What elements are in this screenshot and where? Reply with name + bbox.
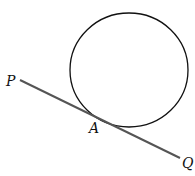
tangent-diagram: P A Q: [0, 0, 195, 176]
label-p: P: [5, 73, 16, 89]
circle: [70, 13, 188, 127]
label-q: Q: [182, 155, 194, 171]
tangent-line-pq: [20, 80, 180, 158]
diagram-svg: P A Q: [0, 0, 195, 176]
label-a: A: [87, 120, 99, 136]
